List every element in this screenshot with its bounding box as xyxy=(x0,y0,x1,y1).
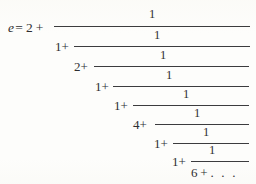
fraction-bar-4 xyxy=(133,105,249,106)
tail-term: 6 xyxy=(191,165,198,180)
numerator-6: 1 xyxy=(194,126,218,139)
plus-sign-tail: + xyxy=(200,165,207,180)
numerator-0: 1 xyxy=(140,8,164,21)
partial-quotient-4: 1+ xyxy=(114,99,128,112)
formula-page: e= 2 + 1 1+ 1 2+ 1 1+ 1 1+ 1 4+ 1 1+ 1 xyxy=(0,0,256,184)
partial-quotient-5: 4+ xyxy=(133,118,147,131)
equals-sign: = xyxy=(15,20,23,35)
fraction-bar-3 xyxy=(113,86,249,87)
fraction-bar-5 xyxy=(155,124,249,125)
expression-lead: e= 2 + xyxy=(8,21,44,35)
partial-quotient-2: 2+ xyxy=(74,60,88,73)
plus-sign-0: + xyxy=(36,20,44,35)
numerator-1: 1 xyxy=(145,29,169,42)
partial-quotient-1: 1+ xyxy=(55,40,69,53)
ellipsis-icon: . . . xyxy=(210,165,237,180)
numerator-5: 1 xyxy=(185,107,209,120)
numerator-3: 1 xyxy=(157,69,181,82)
fraction-bar-7 xyxy=(191,161,249,162)
integer-part: 2 xyxy=(26,20,33,35)
fraction-bar-0 xyxy=(54,26,250,27)
fraction-bar-2 xyxy=(94,66,249,67)
numerator-2: 1 xyxy=(151,49,175,62)
partial-quotient-7: 1+ xyxy=(172,155,186,168)
tail-denominator: 6 + . . . xyxy=(191,166,238,179)
fraction-bar-1 xyxy=(74,46,250,47)
numerator-7: 1 xyxy=(200,144,224,157)
partial-quotient-3: 1+ xyxy=(95,80,109,93)
numerator-4: 1 xyxy=(174,88,198,101)
partial-quotient-6: 1+ xyxy=(154,137,168,150)
